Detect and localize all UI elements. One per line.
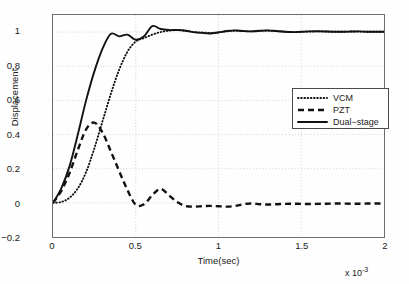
exponent-mantissa: x 10	[345, 268, 362, 278]
y-axis-title: Displacement	[9, 38, 20, 158]
exponent-power: -3	[362, 266, 368, 273]
y-tick-label: 0.2	[0, 164, 20, 174]
legend-swatch-dashed	[297, 105, 328, 115]
legend-label: VCM	[333, 94, 353, 103]
x-tick-label: 1	[199, 241, 239, 251]
legend-label: PZT	[333, 106, 350, 115]
x-tick-label: 2	[365, 241, 405, 251]
x-axis-title: Time(sec)	[52, 255, 385, 266]
legend-item-vcm[interactable]: VCM	[297, 92, 384, 104]
legend-item-dual-stage[interactable]: Dual−stage	[297, 116, 384, 128]
y-tick-label: −0.2	[0, 233, 20, 243]
figure-chart-displacement-vs-time: −0.200.20.40.60.81 00.511.52 Displacemen…	[0, 0, 409, 284]
y-tick-label: 1	[0, 26, 20, 36]
y-tick-label: 0	[0, 199, 20, 209]
x-axis-exponent-label: x 10-3	[345, 266, 368, 278]
legend-label: Dual−stage	[333, 118, 379, 127]
series-line-pzt	[53, 123, 384, 207]
legend-swatch-solid	[297, 117, 328, 127]
x-tick-label: 1.5	[282, 241, 322, 251]
legend-item-pzt[interactable]: PZT	[297, 104, 384, 116]
x-tick-label: 0	[32, 241, 72, 251]
x-tick-label: 0.5	[115, 241, 155, 251]
legend: VCMPZTDual−stage	[292, 88, 389, 129]
legend-swatch-dotted	[297, 93, 328, 103]
